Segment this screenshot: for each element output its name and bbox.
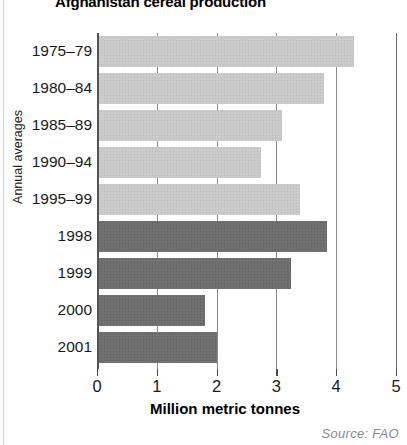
x-axis-ticks — [97, 369, 396, 376]
x-tick-label: 5 — [381, 377, 407, 396]
y-tick-label: 1998 — [6, 227, 92, 245]
y-tick-label: 1985–89 — [6, 116, 92, 134]
x-tick-label: 4 — [321, 377, 351, 396]
x-tick-3 — [276, 369, 277, 376]
bar-row — [97, 70, 396, 107]
x-tick-0 — [97, 369, 98, 376]
bar-row — [97, 255, 396, 292]
chart-figure: Afghanistan cereal production Annual ave… — [0, 0, 407, 445]
bar-row — [97, 292, 396, 329]
bar-2001 — [97, 332, 217, 363]
x-tick-4 — [336, 369, 337, 376]
y-tick-label: 1975–79 — [6, 42, 92, 60]
bar-1998 — [97, 221, 327, 252]
bar-1975-79 — [97, 36, 354, 67]
bar-1985-89 — [97, 110, 282, 141]
bar-2000 — [97, 295, 205, 326]
bar-1995-99 — [97, 184, 300, 215]
source-note: Source: FAO — [322, 426, 399, 441]
bar-1990-94 — [97, 147, 261, 178]
x-tick-label: 1 — [142, 377, 172, 396]
bar-row — [97, 218, 396, 255]
x-tick-label: 3 — [261, 377, 291, 396]
y-tick-label: 1980–84 — [6, 79, 92, 97]
bar-row — [97, 144, 396, 181]
gridline-5 — [396, 33, 397, 369]
y-tick-label: 2001 — [6, 338, 92, 356]
y-tick-label: 1990–94 — [6, 153, 92, 171]
plot-area — [97, 33, 396, 369]
x-tick-1 — [157, 369, 158, 376]
y-tick-label: 1995–99 — [6, 190, 92, 208]
bar-row — [97, 33, 396, 70]
x-tick-5 — [396, 369, 397, 376]
x-axis-tick-labels: 012345 — [97, 377, 396, 399]
bar-row — [97, 107, 396, 144]
bar-1999 — [97, 258, 291, 289]
x-tick-label: 2 — [202, 377, 232, 396]
y-axis-line — [97, 33, 99, 369]
bar-row — [97, 181, 396, 218]
chart-title: Afghanistan cereal production — [55, 0, 266, 10]
y-tick-label: 1999 — [6, 264, 92, 282]
x-tick-label: 0 — [82, 377, 112, 396]
y-axis-tick-labels: 1975–791980–841985–891990–941995–9919981… — [0, 33, 92, 369]
x-axis-title: Million metric tonnes — [60, 400, 390, 417]
bar-row — [97, 329, 396, 366]
x-tick-2 — [217, 369, 218, 376]
bar-1980-84 — [97, 73, 324, 104]
y-tick-label: 2000 — [6, 301, 92, 319]
